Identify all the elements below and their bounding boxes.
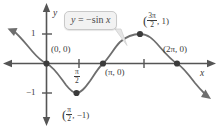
y-tick-label-1: 1 (31, 28, 36, 38)
label-rest: , −1) (72, 110, 89, 120)
fraction-numerator: π (74, 68, 80, 76)
point-two-pi-zero (174, 60, 180, 66)
point-maximum (137, 31, 143, 37)
y-axis-arrow-up (43, 3, 50, 12)
y-axis-label: y (53, 8, 57, 18)
fraction-numerator: π (66, 106, 72, 114)
callout-rhs: −sin (86, 14, 103, 25)
x-tick-label-pi-over-2: π 2 (74, 68, 80, 85)
y-axis-arrow-down (43, 117, 50, 126)
fraction-pi-over-2: π2 (66, 106, 72, 123)
point-pi-zero (100, 60, 106, 66)
callout-variable: x (106, 14, 110, 25)
fraction-denominator: 2 (66, 114, 72, 123)
x-axis-arrow-right (207, 60, 216, 67)
sine-graph-figure: y = −sin x y x 1 −1 π 2 (0, 0) (π, 0) (2… (0, 0, 221, 128)
x-axis-label: x (200, 68, 204, 78)
fraction-denominator: 2 (74, 76, 80, 85)
point-label-origin: (0, 0) (51, 44, 71, 54)
point-label-two-pi-zero: (2π, 0) (163, 44, 187, 54)
label-rest: , 1) (157, 16, 169, 26)
y-tick-label-neg1: −1 (26, 87, 36, 97)
fraction-pi-over-2: π 2 (74, 68, 80, 85)
point-label-minimum: (π2, −1) (62, 106, 89, 123)
fraction-3pi-over-2: 3π2 (147, 12, 157, 29)
fraction-numerator: 3π (147, 12, 157, 20)
equation-callout: y = −sin x (64, 11, 117, 30)
x-axis-arrow-left (3, 60, 12, 67)
point-origin (43, 60, 49, 66)
point-label-maximum: (3π2, 1) (143, 12, 169, 29)
callout-equals: = (78, 14, 84, 25)
fraction-denominator: 2 (147, 20, 157, 29)
callout-y: y (71, 14, 75, 25)
point-minimum (73, 90, 79, 96)
point-label-pi-zero: (π, 0) (105, 67, 125, 77)
